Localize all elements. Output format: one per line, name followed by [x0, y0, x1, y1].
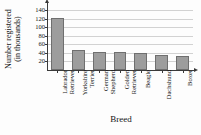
x-axis-category-label-word: Beagle: [144, 70, 151, 88]
y-axis-tick-mark: [45, 27, 48, 28]
y-axis-title-line1: Number registered: [4, 9, 13, 69]
x-axis-category-labels: LabradorRetrieverYorkshireTerrierGermanS…: [47, 70, 195, 112]
x-axis-category-label: GermanShepherd: [102, 70, 116, 112]
gridline: [47, 27, 193, 28]
x-axis-category-label-word: Labrador: [61, 70, 68, 94]
plot-area: [47, 6, 193, 70]
x-axis-category-label-word: Shepherd: [109, 70, 116, 95]
y-axis-tick-mark: [45, 53, 48, 54]
bar: [134, 53, 147, 70]
gridline: [47, 10, 193, 11]
bar: [72, 50, 85, 70]
x-axis-category-label-word: Dachshund: [165, 70, 172, 99]
gridline: [47, 36, 193, 37]
x-axis-category-label: LabradorRetriever: [61, 70, 75, 112]
x-axis-title: Breed: [47, 114, 195, 124]
x-axis-category-label: GoldenRetriever: [123, 70, 137, 112]
x-axis-category-label-word: Retriever: [68, 70, 75, 94]
y-axis-tick-mark: [45, 61, 48, 62]
x-axis-category-label-word: Boxer: [186, 70, 193, 86]
y-axis-tick-mark: [45, 44, 48, 45]
bar-chart-figure: American Kennel Club Number registered (…: [0, 0, 201, 135]
bar: [93, 52, 106, 70]
bar: [51, 18, 64, 70]
y-axis-tick-labels: 20406080100120140: [20, 6, 45, 70]
x-axis-category-label: YorkshireTerrier: [81, 70, 95, 112]
y-axis-tick-mark: [45, 19, 48, 20]
y-axis-arrow-icon: [45, 0, 49, 3]
gridline: [47, 44, 193, 45]
y-axis-tick-mark: [45, 10, 48, 11]
bar: [155, 55, 168, 70]
x-axis-category-label-word: Retriever: [130, 70, 137, 94]
x-axis-category-label: Dachshund: [165, 70, 179, 112]
x-axis-category-label-word: Terrier: [88, 70, 95, 88]
x-axis-category-label: Boxer: [186, 70, 200, 112]
gridline: [47, 19, 193, 20]
bar: [176, 56, 189, 71]
bar: [114, 52, 127, 70]
y-axis-tick-mark: [45, 36, 48, 37]
x-axis-category-label: Beagle: [144, 70, 158, 112]
